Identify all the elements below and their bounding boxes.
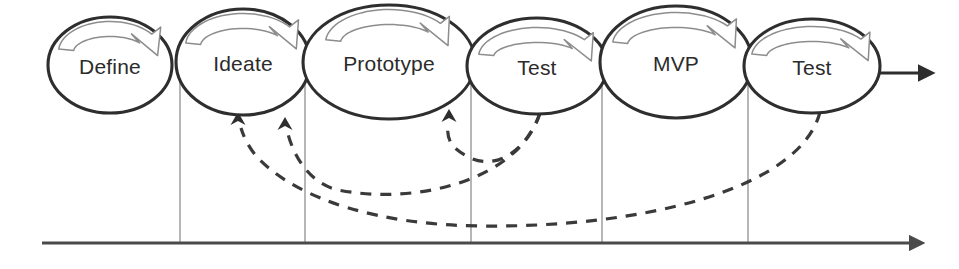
process-diagram: DefineIdeatePrototypeTestMVPTest: [0, 0, 959, 269]
stage-ideate-label: Ideate: [213, 52, 273, 75]
feedback-test1-to-ideate: [288, 113, 540, 194]
feedback-test1-to-ideate-arrowhead: [278, 117, 293, 130]
stage-mvp-label: MVP: [653, 52, 699, 75]
stage-mvp[interactable]: MVP: [600, 6, 752, 118]
stage-define[interactable]: Define: [48, 17, 172, 113]
stage-ideate[interactable]: Ideate: [176, 9, 310, 115]
feedback-test1-to-prototype-arrowhead: [442, 109, 457, 122]
stage-ellipses-group: DefineIdeatePrototypeTestMVPTest: [48, 5, 880, 119]
feedback-test2-to-ideate: [241, 112, 820, 226]
stage-prototype[interactable]: Prototype: [303, 5, 475, 119]
stage-prototype-label: Prototype: [343, 52, 435, 75]
stage-define-label: Define: [79, 55, 141, 78]
stage-test-2-label: Test: [792, 56, 831, 79]
diagram-canvas: DefineIdeatePrototypeTestMVPTest: [0, 0, 959, 269]
stage-test-2[interactable]: Test: [744, 19, 880, 113]
stage-test-1[interactable]: Test: [467, 18, 607, 114]
feedback-arcs-group: [231, 109, 821, 226]
stage-test-1-label: Test: [517, 56, 556, 79]
